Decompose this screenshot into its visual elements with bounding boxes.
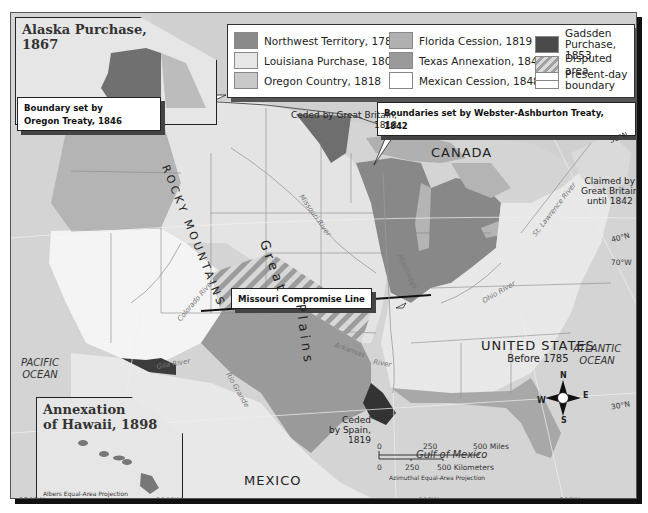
coord-70w: 70°W: [611, 258, 632, 267]
label-claimed-great-britain: Claimed by Great Britain until 1842: [581, 176, 637, 206]
label-atlantic-ocean: ATLANTIC OCEAN: [573, 343, 621, 367]
label-ceded-spain: Ceded by Spain, 1819: [329, 415, 371, 445]
swatch-gadsden-purchase: [535, 36, 559, 53]
legend-louisiana-purchase: Louisiana Purchase, 1803: [234, 52, 398, 69]
map-frame: Alaska Purchase, 1867 Azimuthal Equal-Ar…: [10, 12, 637, 499]
swatch-florida-cession: [389, 32, 413, 49]
coord-120w: 120°W: [19, 496, 44, 499]
scale-projection-label: Azimuthal Equal-Area Projection: [389, 474, 485, 481]
legend-texas-annexation: Texas Annexation, 1845: [389, 52, 544, 69]
hawaii-title: Annexation of Hawaii, 1898: [43, 402, 157, 432]
legend-present-day-boundary: Present-day boundary: [535, 69, 637, 91]
legend-northwest-territory: Northwest Territory, 1785: [234, 32, 398, 49]
swatch-mexican-cession: [389, 72, 413, 89]
map-legend: Northwest Territory, 1785 Louisiana Purc…: [227, 24, 635, 98]
label-mexico: MEXICO: [244, 473, 301, 488]
scale-km-0: 0: [377, 463, 382, 472]
scale-km-500: 500 Kilometers: [437, 463, 494, 472]
label-pacific-ocean: PACIFIC OCEAN: [21, 357, 59, 381]
swatch-texas-annexation: [389, 52, 413, 69]
swatch-present-day-boundary: [535, 72, 559, 89]
legend-mexican-cession: Mexican Cession, 1848: [389, 72, 540, 89]
scale-miles-0: 0: [377, 442, 382, 451]
callout-oregon-treaty: Boundary set by Oregon Treaty, 1846: [17, 97, 161, 131]
alaska-title: Alaska Purchase, 1867: [22, 22, 147, 52]
compass-w: W: [537, 396, 546, 405]
coord-80w: 80°W: [559, 496, 580, 499]
compass-n: N: [560, 371, 567, 380]
scale-km-250: 250: [405, 463, 419, 472]
swatch-louisiana-purchase: [234, 52, 258, 69]
callout-webster-ashburton: Boundaries set by Webster-Ashburton Trea…: [377, 102, 636, 136]
label-ceded-great-britain: Ceded by Great Britain, 1818: [291, 110, 397, 130]
label-canada: CANADA: [431, 145, 492, 160]
compass-s: S: [561, 416, 567, 425]
compass-e: E: [583, 391, 588, 400]
legend-florida-cession: Florida Cession, 1819: [389, 32, 532, 49]
swatch-oregon-country: [234, 72, 258, 89]
coord-110w: 110°W: [156, 496, 181, 499]
swatch-northwest-territory: [234, 32, 258, 49]
hawaii-projection-label: Albers Equal-Area Projection: [43, 490, 128, 497]
legend-oregon-country: Oregon Country, 1818: [234, 72, 381, 89]
scale-miles-500: 500 Miles: [473, 442, 509, 451]
scale-miles-250: 250: [423, 442, 437, 451]
coord-90w: 90°W: [418, 496, 439, 499]
